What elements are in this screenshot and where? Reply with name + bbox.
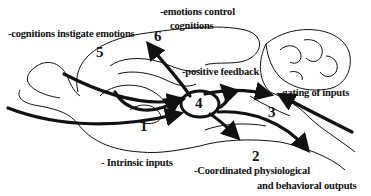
label-gating-of-inputs: -gating of inputs xyxy=(279,87,349,98)
label-positive-feedback: -positive feedback xyxy=(182,66,259,77)
pathway-number-5: 5 xyxy=(96,44,103,61)
label-cognitions-instigate-emotions: -cognitions instigate emotions xyxy=(8,28,134,39)
label-emotions-control-2: cognitions xyxy=(170,20,214,31)
label-emotions-control-1: -emotions control xyxy=(160,6,235,17)
pathway-number-3: 3 xyxy=(268,104,275,121)
brain-diagram: -cognitions instigate emotions -emotions… xyxy=(0,0,371,196)
pathway-number-2: 2 xyxy=(252,148,259,165)
label-outputs-1: -Coordinated physiological xyxy=(194,165,310,176)
pathway-number-4: 4 xyxy=(195,95,202,112)
label-intrinsic-inputs: - Intrinsic inputs xyxy=(101,157,173,168)
label-outputs-2: and behavioral outputs xyxy=(257,180,356,191)
pathway-number-6: 6 xyxy=(154,28,161,45)
pathway-number-1: 1 xyxy=(140,118,147,135)
